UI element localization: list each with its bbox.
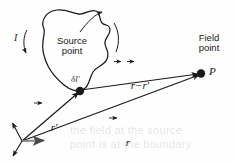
current-label: I xyxy=(14,33,17,44)
physics-vector-diagram: the field at the source point is at the … xyxy=(0,0,235,163)
current-arrow-right-icon xyxy=(114,23,118,52)
field-point-label: Fieldpoint xyxy=(186,33,232,54)
separation-vector-label: r−r′ xyxy=(113,58,149,110)
line-element-label: δl′ xyxy=(71,75,80,85)
source-position-vector-prime-mark: ′ xyxy=(55,118,57,134)
separation-vector-minus: − xyxy=(135,76,142,92)
field-position-vector-label: r xyxy=(108,115,130,163)
field-point-dot xyxy=(197,69,205,77)
separation-vector-prime-mark: ′ xyxy=(147,76,149,92)
axis-z-arrow xyxy=(13,141,22,156)
source-point-dot xyxy=(76,87,84,95)
axis-y-arrow xyxy=(13,123,23,141)
source-position-vector-label: r′ xyxy=(33,100,57,152)
current-arrow-left-icon xyxy=(24,30,27,53)
field-point-symbol-label: P xyxy=(209,66,216,78)
source-point-label: Sourcepoint xyxy=(45,36,99,57)
field-position-vector-r: r xyxy=(126,133,130,149)
